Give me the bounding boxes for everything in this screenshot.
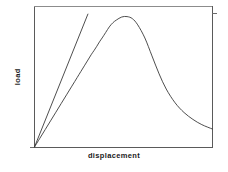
chart-figure: load displacement: [0, 0, 228, 172]
y-axis-label: load: [13, 68, 21, 85]
y-axis-label-container: load: [0, 0, 34, 153]
axes-frame: [30, 6, 217, 148]
data-curves: [35, 14, 213, 147]
x-axis-label: displacement: [0, 152, 228, 160]
initial-tangent-line: [35, 14, 88, 147]
plot-area: [0, 0, 228, 172]
